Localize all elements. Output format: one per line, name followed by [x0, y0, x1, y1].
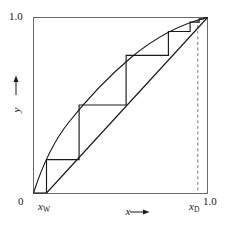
x-axis-title: x [126, 206, 131, 217]
xd-tick-label: xD [189, 197, 199, 213]
y-axis-title-text: y [10, 108, 22, 113]
mccabe-thiele-figure [0, 0, 230, 228]
y-axis-title: y [11, 108, 22, 113]
dashed-guides [47, 20, 198, 194]
origin-label: 0 [18, 196, 24, 207]
y-axis-max-label: 1.0 [9, 11, 23, 22]
x-axis-title-text: x [126, 205, 131, 217]
xw-subscript: W [43, 205, 50, 214]
curves [34, 18, 208, 194]
xw-tick-label: xW [38, 197, 50, 213]
xd-subscript: D [194, 205, 199, 214]
operating-line [47, 18, 208, 194]
x-axis-max-label: 1.0 [203, 196, 217, 207]
